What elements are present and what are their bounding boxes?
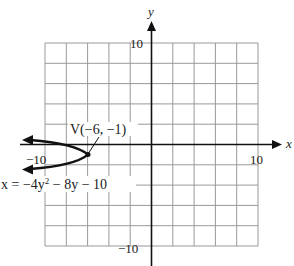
- vertex-point: [86, 152, 91, 157]
- y-tick-10: 10: [130, 36, 143, 51]
- x-tick-10: 10: [250, 152, 263, 167]
- x-axis-arrow-icon: [272, 140, 282, 149]
- curve-arrow-upper-icon: [22, 135, 33, 145]
- vertex-label: V(−6, −1): [70, 122, 127, 138]
- equation-pre: x = −4y: [1, 177, 45, 192]
- equation-post: − 8y − 10: [49, 177, 107, 192]
- vertex-leader: [88, 137, 99, 154]
- y-axis-arrow-icon: [147, 21, 156, 31]
- equation-label: x = −4y2 − 8y − 10: [1, 176, 107, 192]
- parabola-graph: x y 10 −10 10 −10 V(−6, −1) x = −4y2 − 8…: [0, 0, 294, 266]
- x-tick-neg10: −10: [26, 152, 46, 167]
- y-axis-label: y: [146, 4, 154, 19]
- y-tick-neg10: −10: [118, 241, 138, 256]
- x-axis-label: x: [285, 136, 292, 151]
